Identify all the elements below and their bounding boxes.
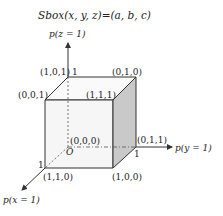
- vertex-top-front-right: (1,1,1): [86, 90, 116, 100]
- vertex-bottom-front-right: (1,0,0): [112, 172, 142, 182]
- x-axis-label: p(x = 1): [3, 195, 40, 205]
- x-tick-1: 1: [38, 160, 44, 170]
- vertex-bottom-back-right: (0,1,1): [137, 135, 167, 145]
- y-tick-1: 1: [134, 149, 140, 159]
- z-axis-label: p(z = 1): [49, 29, 86, 39]
- vertex-bottom-front-left: (1,1,0): [43, 172, 73, 182]
- vertex-top-back-left: (1,0,1): [40, 67, 70, 77]
- cube-front-face: [45, 100, 113, 168]
- x-axis: [22, 168, 45, 190]
- origin-coord: (0,0,0): [70, 136, 100, 146]
- origin-label: O: [66, 147, 74, 157]
- sbox-cube-diagram: Sbox(x, y, z)=(a, b, c) p(z = 1) p(y = 1…: [0, 0, 223, 216]
- diagram-title: Sbox(x, y, z)=(a, b, c): [38, 9, 151, 21]
- y-axis-label: p(y = 1): [175, 143, 212, 153]
- vertex-top-back-right: (0,1,0): [112, 67, 142, 77]
- vertex-top-front-left: (0,0,1): [18, 90, 48, 100]
- z-tick-1: 1: [72, 67, 78, 77]
